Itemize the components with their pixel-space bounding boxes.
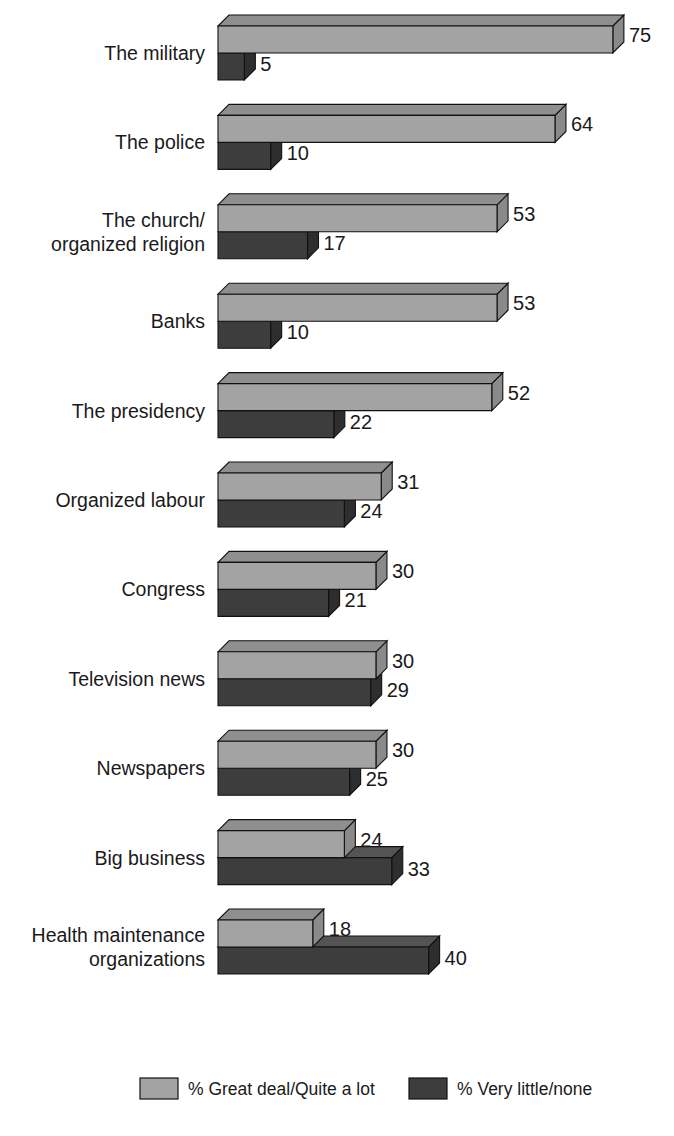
bar-dark-9-front — [218, 858, 392, 885]
category-label-10: Health maintenance — [32, 924, 205, 946]
bar-light-3-top — [218, 283, 508, 294]
bar-light-2-front — [218, 205, 497, 232]
value-label-light-2: 53 — [513, 203, 535, 225]
category-label-8: Newspapers — [97, 757, 206, 779]
bar-light-4 — [218, 373, 503, 411]
value-label-dark-9: 33 — [408, 858, 430, 880]
value-label-light-4: 52 — [508, 382, 530, 404]
bar-light-9-top — [218, 820, 355, 831]
bar-dark-5-front — [218, 500, 344, 527]
legend-item-1: % Very little/none — [409, 1078, 592, 1099]
value-label-dark-0: 5 — [260, 53, 271, 75]
value-label-light-10: 18 — [329, 918, 351, 940]
legend-label-0: % Great deal/Quite a lot — [188, 1079, 375, 1099]
value-label-light-0: 75 — [629, 24, 651, 46]
bar-light-10-front — [218, 920, 313, 947]
value-label-dark-10: 40 — [445, 947, 467, 969]
category-label-2: organized religion — [51, 233, 205, 255]
category-label-7: Television news — [68, 668, 205, 690]
bar-light-4-top — [218, 373, 503, 384]
value-label-light-8: 30 — [392, 739, 414, 761]
category-label-2: The church/ — [102, 209, 206, 231]
bar-dark-7-front — [218, 679, 371, 706]
value-label-dark-4: 22 — [350, 411, 372, 433]
bar-light-2-top — [218, 194, 508, 205]
legend-item-0: % Great deal/Quite a lot — [140, 1078, 375, 1099]
category-label-5: Organized labour — [55, 489, 205, 511]
value-label-dark-5: 24 — [360, 500, 382, 522]
bar-light-6 — [218, 551, 387, 589]
category-label-3: Banks — [151, 310, 205, 332]
value-label-dark-6: 21 — [345, 589, 367, 611]
value-label-light-1: 64 — [571, 113, 593, 135]
bar-dark-3-front — [218, 321, 271, 348]
legend-label-1: % Very little/none — [457, 1079, 592, 1099]
bar-light-8-front — [218, 741, 376, 768]
bar-light-0-front — [218, 26, 613, 53]
bar-light-5 — [218, 462, 392, 500]
bar-dark-6-front — [218, 589, 329, 616]
bar-light-10-top — [218, 909, 324, 920]
bar-light-6-top — [218, 551, 387, 562]
bar-light-5-top — [218, 462, 392, 473]
category-label-0: The military — [104, 42, 205, 64]
bar-dark-2-front — [218, 232, 308, 259]
bar-light-6-front — [218, 562, 376, 589]
category-label-9: Big business — [94, 847, 205, 869]
bar-light-1-top — [218, 104, 566, 115]
legend-swatch-1 — [409, 1078, 447, 1099]
bar-light-7-top — [218, 641, 387, 652]
value-label-light-9: 24 — [360, 829, 382, 851]
bar-light-3 — [218, 283, 508, 321]
bar-light-1 — [218, 104, 566, 142]
value-label-dark-8: 25 — [366, 768, 388, 790]
chart-legend: % Great deal/Quite a lot% Very little/no… — [140, 1078, 592, 1099]
bar-dark-1-front — [218, 142, 271, 169]
bar-light-7 — [218, 641, 387, 679]
chart-container: The militaryThe policeThe church/organiz… — [0, 0, 674, 1136]
bar-dark-4-front — [218, 411, 334, 438]
bar-light-4-front — [218, 384, 492, 411]
bar-chart-canvas: The militaryThe policeThe church/organiz… — [0, 0, 674, 1136]
bar-light-0 — [218, 15, 624, 53]
category-label-10: organizations — [89, 948, 205, 970]
bar-light-2 — [218, 194, 508, 232]
legend-swatch-0 — [140, 1078, 178, 1099]
category-label-6: Congress — [122, 578, 206, 600]
value-label-dark-7: 29 — [387, 679, 409, 701]
bar-light-3-front — [218, 294, 497, 321]
bar-dark-10-front — [218, 947, 429, 974]
value-label-light-5: 31 — [397, 471, 419, 493]
bar-light-7-front — [218, 652, 376, 679]
value-label-dark-3: 10 — [287, 321, 309, 343]
bar-light-8-top — [218, 730, 387, 741]
bar-light-10 — [218, 909, 324, 947]
value-label-light-7: 30 — [392, 650, 414, 672]
value-label-dark-2: 17 — [324, 232, 346, 254]
bar-light-5-front — [218, 473, 381, 500]
bar-light-1-front — [218, 115, 555, 142]
category-label-4: The presidency — [72, 400, 206, 422]
bar-light-9-front — [218, 831, 344, 858]
bar-dark-8-front — [218, 768, 350, 795]
category-label-1: The police — [115, 131, 205, 153]
bar-light-9 — [218, 820, 355, 858]
value-label-dark-1: 10 — [287, 142, 309, 164]
bar-dark-0-front — [218, 53, 244, 80]
bar-light-8 — [218, 730, 387, 768]
value-label-light-3: 53 — [513, 292, 535, 314]
bar-light-0-top — [218, 15, 624, 26]
value-label-light-6: 30 — [392, 560, 414, 582]
